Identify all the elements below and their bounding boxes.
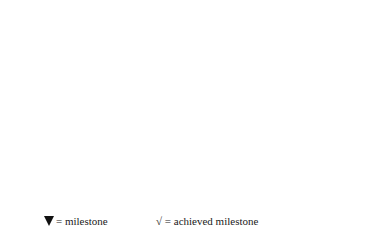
milestone-triangle-icon bbox=[44, 216, 54, 226]
legend-achieved-text: = achieved milestone bbox=[165, 215, 259, 227]
legend-milestone-text: = milestone bbox=[56, 215, 108, 227]
legend-achieved: √ = achieved milestone bbox=[156, 215, 258, 227]
legend-milestone: = milestone bbox=[44, 215, 108, 227]
